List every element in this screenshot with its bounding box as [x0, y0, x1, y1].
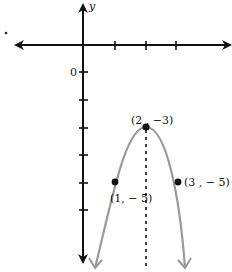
parabola-graph: y 0 (2 , −3) (1, − 5) (3 , − 5)	[0, 0, 232, 272]
right-point-label: (3 , − 5)	[184, 176, 230, 189]
y-axis	[79, 5, 88, 262]
y-axis-label: y	[88, 0, 96, 13]
x-axis	[16, 41, 230, 50]
point-right	[175, 179, 182, 186]
vertex-label: (2 , −3)	[131, 114, 173, 127]
origin-label: 0	[70, 66, 77, 79]
stray-dot	[5, 32, 8, 35]
point-left	[112, 179, 119, 186]
left-point-label: (1, − 5)	[110, 192, 152, 205]
